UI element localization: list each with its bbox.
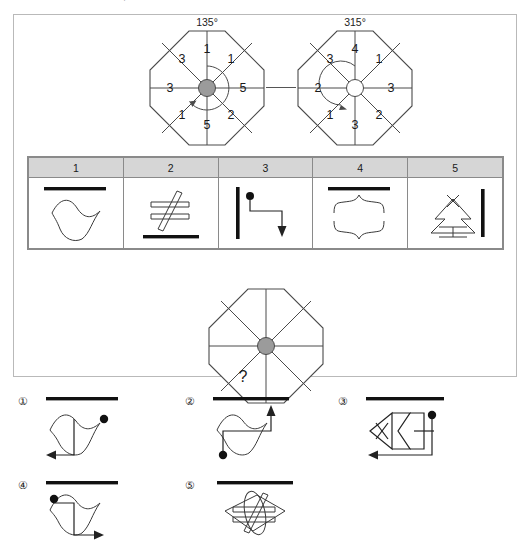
legend-symbol-row [29, 178, 503, 249]
choice-3-graphic [352, 393, 482, 467]
choice-5-number: ⑤ [185, 479, 195, 492]
choice-4[interactable]: ④ [18, 477, 170, 547]
right-octagon-value-7: 3 [327, 52, 334, 66]
legend-header-2: 2 [123, 158, 218, 178]
vertical-bar-dot-arrow-icon [220, 181, 310, 245]
tree-and-vertical-bar-icon [409, 181, 499, 245]
left-octagon-value-5: 1 [179, 108, 186, 122]
choice-1[interactable]: ① [18, 393, 170, 471]
choice-1-graphic [32, 393, 150, 467]
question-mark: ? [239, 368, 248, 385]
right-octagon-angle-label: 315° [296, 16, 414, 28]
choice-4-graphic [32, 477, 150, 545]
legend-cell-1 [29, 178, 124, 249]
legend-header-3: 3 [218, 158, 313, 178]
left-octagon-angle-label: 135° [148, 16, 266, 28]
question-prompt: 다음 기호의 규칙을 찾아, 물음표에 들어갈 알맞은 것을 고르시오. [0, 0, 532, 11]
bar-over-braces-icon [314, 181, 404, 245]
bar-over-wave-icon [30, 181, 120, 245]
right-octagon-value-1: 1 [376, 52, 383, 66]
legend-cell-2 [123, 178, 218, 249]
legend-cell-3 [218, 178, 313, 249]
left-octagon-value-1: 1 [228, 52, 235, 66]
right-octagon-value-5: 1 [327, 108, 334, 122]
left-octagon-value-3: 2 [228, 108, 235, 122]
right-octagon: 315° 4 1 3 [296, 29, 414, 147]
choice-1-number: ① [18, 395, 28, 408]
left-octagon: 135° 1 1 5 [148, 29, 266, 147]
symbol-legend-table: 1 2 3 4 5 [27, 156, 504, 250]
choice-2-number: ② [185, 395, 195, 408]
legend-header-1: 1 [29, 158, 124, 178]
legend-header-4: 4 [313, 158, 408, 178]
diagram-connector-line [266, 87, 296, 88]
legend-cell-4 [313, 178, 408, 249]
choice-2[interactable]: ② [185, 393, 337, 471]
right-octagon-value-6: 2 [315, 81, 322, 95]
right-octagon-graphic: 4 1 3 2 3 1 2 3 [296, 29, 414, 147]
choice-3-number: ③ [338, 395, 348, 408]
top-diagram-row: 135° 1 1 5 [14, 15, 518, 151]
left-octagon-value-6: 3 [167, 81, 174, 95]
right-octagon-value-3: 2 [376, 108, 383, 122]
left-octagon-value-2: 5 [240, 81, 247, 95]
answer-choices: ① ② ③ [0, 385, 532, 547]
choice-5-graphic [199, 477, 317, 545]
legend-cell-5 [408, 178, 503, 249]
legend-header-row: 1 2 3 4 5 [29, 158, 503, 178]
choice-4-number: ④ [18, 479, 28, 492]
left-octagon-graphic: 1 1 5 2 5 1 3 3 [148, 29, 266, 147]
question-prompt-text: 다음 기호의 규칙을 찾아, 물음표에 들어갈 알맞은 것을 고르시오. [6, 0, 317, 2]
not-equal-over-bar-icon [125, 181, 215, 245]
right-octagon-value-0: 4 [352, 42, 359, 56]
left-octagon-value-0: 1 [204, 42, 211, 56]
choice-2-graphic [199, 393, 317, 467]
choice-3[interactable]: ③ [338, 393, 490, 471]
left-octagon-value-7: 3 [179, 52, 186, 66]
right-octagon-value-4: 3 [352, 118, 359, 132]
left-octagon-value-4: 5 [204, 118, 211, 132]
legend-header-5: 5 [408, 158, 503, 178]
right-octagon-value-2: 3 [388, 81, 395, 95]
choice-5[interactable]: ⑤ [185, 477, 337, 547]
problem-panel: 135° 1 1 5 [13, 14, 517, 377]
